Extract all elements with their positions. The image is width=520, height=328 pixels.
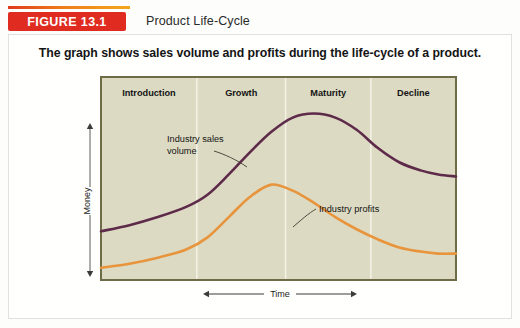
x-axis-label: Time: [270, 289, 290, 299]
figure-title: Product Life-Cycle: [146, 14, 250, 28]
product-life-cycle-chart: IntroductionGrowthMaturityDecline Money: [9, 35, 511, 318]
stage-label-decline: Decline: [397, 88, 430, 98]
annotation-sales-line2: volume: [167, 146, 197, 156]
stage-label-introduction: Introduction: [122, 88, 176, 98]
x-axis-arrow-left-icon: [203, 291, 209, 297]
figure-number-badge: FIGURE 13.1: [8, 12, 126, 31]
figure-container: FIGURE 13.1 Product Life-Cycle The graph…: [0, 0, 520, 328]
y-axis-label: Money: [82, 187, 92, 215]
x-axis-arrow-right-icon: [351, 291, 357, 297]
figure-panel: The graph shows sales volume and profits…: [8, 35, 512, 319]
figure-number-label: FIGURE 13.1: [27, 15, 106, 29]
figure-header: FIGURE 13.1 Product Life-Cycle: [8, 12, 512, 34]
accent-rule: [8, 6, 130, 9]
stage-label-growth: Growth: [225, 88, 258, 98]
y-axis-arrow-down-icon: [87, 271, 93, 277]
chart-area: IntroductionGrowthMaturityDecline Money: [9, 35, 511, 318]
stage-label-maturity: Maturity: [310, 88, 347, 98]
annotation-profits-label: Industry profits: [319, 204, 380, 214]
x-axis-group: Time: [203, 285, 357, 301]
y-axis-group: Money: [82, 123, 99, 277]
y-axis-arrow-up-icon: [87, 123, 93, 129]
annotation-sales-line1: Industry sales: [167, 134, 224, 144]
